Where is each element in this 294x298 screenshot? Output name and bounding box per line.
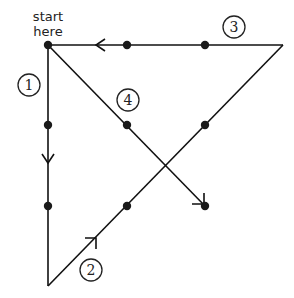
step-2-label: 2 [87,262,96,278]
start-label-line1: start [33,9,63,24]
dot [44,121,52,129]
dot [201,41,209,49]
nine-dots-diagram: start here 1 2 3 4 [0,0,294,298]
dot [44,41,52,49]
dot [201,202,209,210]
step-4-label: 4 [124,92,133,108]
start-label-line2: here [33,24,62,39]
step-1-label: 1 [25,77,34,93]
dot [201,121,209,129]
path-lines [48,45,283,286]
dot [123,121,131,129]
step-3-label: 3 [230,19,239,35]
dot [123,41,131,49]
dot [44,202,52,210]
dot [123,202,131,210]
